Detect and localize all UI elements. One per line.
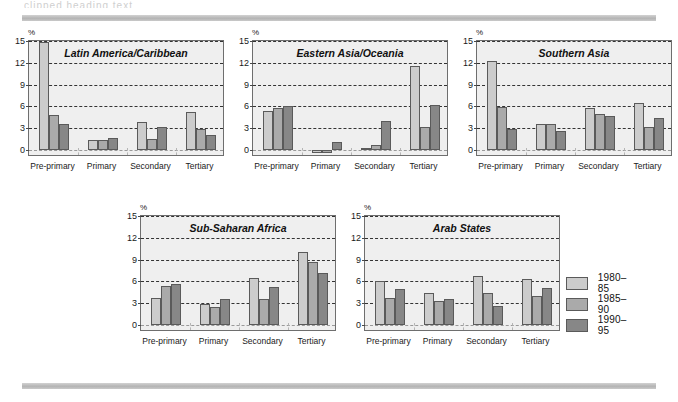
y-tick-label: 15 bbox=[15, 36, 25, 46]
group-separator bbox=[302, 148, 303, 155]
bar bbox=[487, 61, 497, 149]
y-tick-mark bbox=[250, 63, 253, 64]
panel-title: Latin America/Caribbean bbox=[29, 47, 223, 59]
y-tick-label: 0 bbox=[468, 145, 473, 155]
plot-area: 03691215Southern Asia bbox=[476, 40, 672, 156]
plot-area: 03691215Latin America/Caribbean bbox=[28, 40, 224, 156]
group-separator bbox=[400, 148, 401, 155]
y-tick-label: 0 bbox=[244, 145, 249, 155]
group-separator bbox=[190, 323, 191, 330]
bar bbox=[161, 286, 171, 325]
y-tick-label: 12 bbox=[239, 58, 249, 68]
group-separator bbox=[78, 148, 79, 155]
group-separator bbox=[512, 323, 513, 330]
y-tick-label: 12 bbox=[463, 58, 473, 68]
bar bbox=[644, 127, 654, 150]
y-tick-mark bbox=[362, 216, 365, 217]
y-tick-mark bbox=[26, 41, 29, 42]
y-tick-label: 0 bbox=[132, 320, 137, 330]
x-tick-label: Pre-primary bbox=[254, 161, 298, 171]
y-tick-mark bbox=[250, 150, 253, 151]
x-tick-label: Primary bbox=[199, 336, 228, 346]
plot-area: 03691215Sub-Saharan Africa bbox=[140, 215, 336, 331]
plot-area: 03691215Arab States bbox=[364, 215, 560, 331]
gridline bbox=[253, 63, 447, 64]
bar bbox=[298, 252, 308, 325]
gridline bbox=[141, 238, 335, 239]
bar bbox=[318, 273, 328, 324]
gridline bbox=[253, 41, 447, 42]
legend-label: 1990–95 bbox=[598, 314, 631, 336]
y-tick-mark bbox=[362, 281, 365, 282]
y-tick-mark bbox=[26, 128, 29, 129]
y-tick-mark bbox=[474, 41, 477, 42]
x-tick-label: Secondary bbox=[578, 161, 619, 171]
y-tick-label: 15 bbox=[463, 36, 473, 46]
group-separator bbox=[414, 323, 415, 330]
y-tick-mark bbox=[138, 238, 141, 239]
bar bbox=[424, 293, 434, 325]
chart-panel-5: %03691215Arab StatesPre-primaryPrimarySe… bbox=[364, 215, 560, 331]
y-tick-label: 3 bbox=[356, 298, 361, 308]
group-separator bbox=[351, 148, 352, 155]
bar bbox=[259, 299, 269, 324]
y-tick-mark bbox=[250, 41, 253, 42]
legend-item: 1990–95 bbox=[566, 314, 631, 336]
x-tick-label: Secondary bbox=[242, 336, 283, 346]
bar bbox=[59, 124, 69, 150]
y-tick-mark bbox=[474, 150, 477, 151]
gridline bbox=[29, 41, 223, 42]
y-tick-label: 3 bbox=[468, 123, 473, 133]
y-tick-mark bbox=[138, 325, 141, 326]
bar bbox=[483, 293, 493, 325]
group-separator bbox=[624, 148, 625, 155]
y-tick-label: 3 bbox=[244, 123, 249, 133]
zero-line bbox=[253, 150, 447, 151]
y-tick-label: 9 bbox=[468, 80, 473, 90]
gridline bbox=[477, 63, 671, 64]
y-tick-mark bbox=[362, 260, 365, 261]
y-tick-label: 6 bbox=[20, 101, 25, 111]
bar bbox=[273, 108, 283, 149]
zero-line bbox=[29, 150, 223, 151]
y-tick-label: 12 bbox=[15, 58, 25, 68]
bar bbox=[157, 127, 167, 149]
panel-title: Eastern Asia/Oceania bbox=[253, 47, 447, 59]
bar bbox=[249, 278, 259, 324]
y-tick-mark bbox=[26, 106, 29, 107]
y-tick-label: 12 bbox=[127, 233, 137, 243]
x-tick-label: Tertiary bbox=[522, 336, 550, 346]
bar bbox=[206, 135, 216, 150]
y-tick-label: 15 bbox=[239, 36, 249, 46]
y-axis-unit: % bbox=[252, 28, 259, 37]
x-tick-label: Pre-primary bbox=[478, 161, 522, 171]
bar bbox=[434, 301, 444, 325]
y-tick-mark bbox=[362, 238, 365, 239]
bar bbox=[585, 108, 595, 150]
legend-swatch bbox=[566, 298, 588, 311]
bar bbox=[263, 111, 273, 149]
bar bbox=[522, 279, 532, 325]
bottom-rule bbox=[22, 383, 656, 389]
gridline bbox=[365, 260, 559, 261]
y-tick-label: 3 bbox=[20, 123, 25, 133]
x-tick-label: Tertiary bbox=[186, 161, 214, 171]
y-tick-label: 0 bbox=[356, 320, 361, 330]
y-tick-mark bbox=[138, 281, 141, 282]
y-tick-label: 9 bbox=[244, 80, 249, 90]
zero-line bbox=[365, 325, 559, 326]
y-tick-label: 6 bbox=[356, 276, 361, 286]
bar bbox=[186, 112, 196, 150]
bar bbox=[546, 124, 556, 150]
x-tick-label: Tertiary bbox=[410, 161, 438, 171]
group-separator bbox=[176, 148, 177, 155]
bar bbox=[39, 42, 49, 149]
bar bbox=[493, 306, 503, 325]
x-tick-label: Primary bbox=[535, 161, 564, 171]
legend-swatch bbox=[566, 319, 588, 332]
y-tick-mark bbox=[474, 128, 477, 129]
x-tick-label: Primary bbox=[311, 161, 340, 171]
group-separator bbox=[575, 148, 576, 155]
group-separator bbox=[288, 323, 289, 330]
y-tick-label: 15 bbox=[351, 211, 361, 221]
